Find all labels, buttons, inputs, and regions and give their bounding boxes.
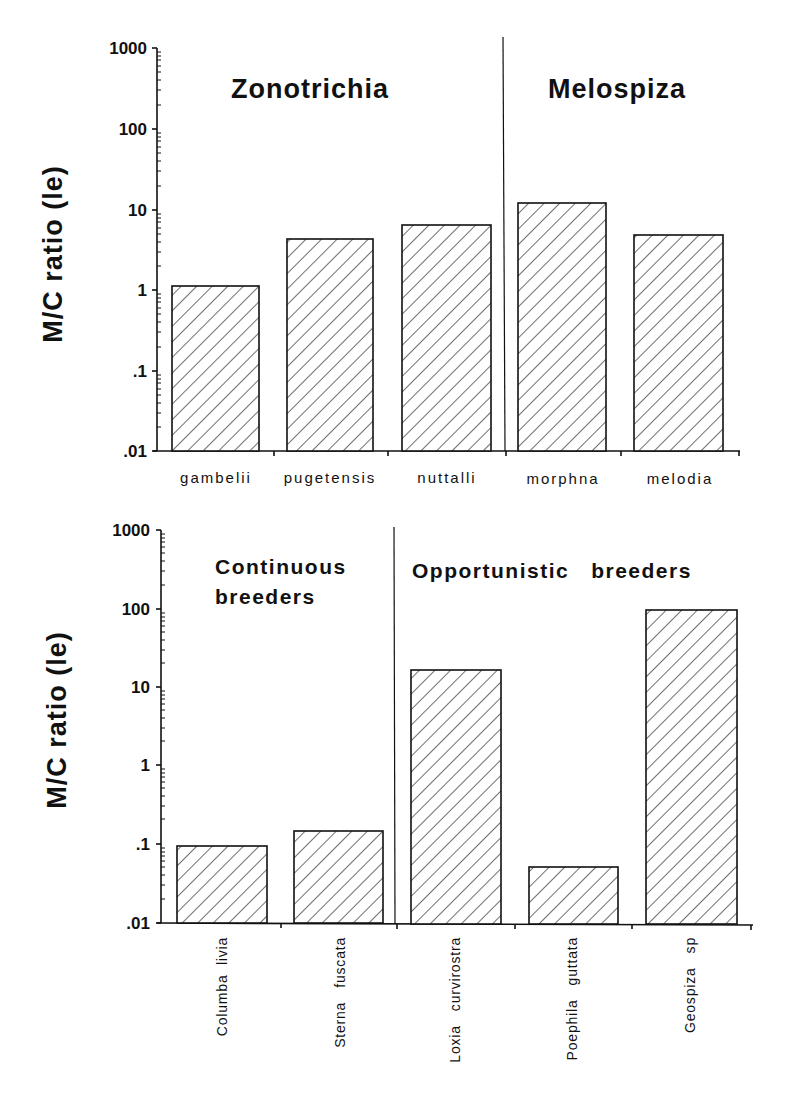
tick-label: 1000 bbox=[109, 39, 147, 58]
tick-label: 1 bbox=[138, 281, 147, 300]
bar-columba-livia bbox=[177, 846, 267, 923]
bar-loxia-curvirostra bbox=[411, 670, 501, 924]
tick-label: 1000 bbox=[112, 521, 150, 540]
top-y-axis-label: M/C ratio (le) bbox=[38, 165, 68, 343]
group-title-continuous-breeders: Continuous breeders bbox=[215, 555, 347, 608]
group-title-melospiza: Melospiza bbox=[548, 74, 686, 104]
group-title-line: Continuous bbox=[215, 555, 347, 578]
top-y-tick-labels: 1000 100 10 1 .1 .01 bbox=[109, 39, 147, 461]
bottom-bars bbox=[177, 610, 737, 924]
group-title-opportunistic-breeders: Opportunistic breeders bbox=[412, 559, 692, 582]
category-label: nuttalli bbox=[417, 469, 476, 486]
tick-label: .1 bbox=[133, 362, 147, 381]
top-x-tick-labels: gambelii pugetensis nuttalli morphna mel… bbox=[180, 469, 713, 487]
category-label: pugetensis bbox=[284, 469, 377, 486]
bottom-x-tick-labels: Columba livia Sterna fuscata Loxia curvi… bbox=[214, 937, 698, 1063]
category-label: Columba livia bbox=[214, 937, 230, 1036]
group-title-line: breeders bbox=[215, 585, 316, 608]
tick-label: 1 bbox=[141, 756, 150, 775]
category-label: Poephila guttata bbox=[564, 937, 580, 1060]
bottom-y-axis-label: M/C ratio (le) bbox=[42, 631, 72, 809]
bottom-chart: M/C ratio (le) 1000 100 10 1 .1 .01 bbox=[42, 521, 753, 1063]
bottom-y-tick-labels: 1000 100 10 1 .1 .01 bbox=[112, 521, 150, 933]
category-label: gambelii bbox=[180, 469, 252, 486]
group-title-zonotrichia: Zonotrichia bbox=[231, 74, 389, 104]
figure: M/C ratio (le) 10 bbox=[0, 0, 790, 1113]
bar-pugetensis bbox=[287, 239, 373, 451]
bar-poephila-guttata bbox=[529, 867, 618, 924]
top-group-divider bbox=[503, 37, 505, 451]
bar-morphna bbox=[518, 203, 606, 451]
bar-nuttalli bbox=[402, 225, 491, 451]
bar-sterna-fuscata bbox=[294, 831, 383, 923]
tick-label: .01 bbox=[123, 442, 147, 461]
category-label: Sterna fuscata bbox=[332, 937, 348, 1048]
bar-gambelii bbox=[172, 286, 259, 451]
bar-geospiza-sp bbox=[646, 610, 737, 924]
top-chart: M/C ratio (le) 10 bbox=[38, 37, 740, 487]
category-label: Geospiza sp bbox=[682, 937, 698, 1033]
tick-label: 10 bbox=[128, 201, 147, 220]
category-label: Loxia curvirostra bbox=[447, 937, 463, 1063]
top-bars bbox=[172, 203, 723, 451]
tick-label: .1 bbox=[136, 835, 150, 854]
bar-melodia bbox=[634, 235, 723, 451]
category-label: morphna bbox=[526, 470, 599, 487]
category-label: melodia bbox=[647, 470, 714, 487]
tick-label: 100 bbox=[122, 600, 150, 619]
tick-label: .01 bbox=[126, 914, 150, 933]
bottom-group-divider bbox=[394, 527, 395, 924]
tick-label: 10 bbox=[131, 678, 150, 697]
tick-label: 100 bbox=[119, 120, 147, 139]
